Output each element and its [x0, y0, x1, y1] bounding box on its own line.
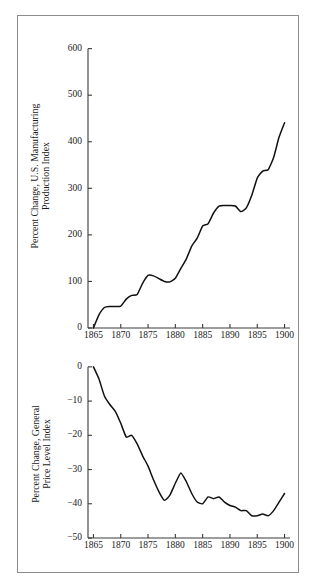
x-tick-label: 1900 — [275, 540, 294, 550]
y-tick-label: −30 — [67, 464, 82, 474]
y-axis-title-manufacturing: Percent Change, U.S. Manufacturing Produ… — [29, 104, 51, 249]
figure-frame: Percent Change, U.S. Manufacturing Produ… — [17, 15, 299, 573]
y-axis-title-line1: Percent Change, U.S. Manufacturing — [29, 104, 40, 249]
x-tick-label: 1895 — [248, 540, 267, 550]
x-tick-label: 1870 — [111, 540, 130, 550]
x-tick-label: 1865 — [84, 330, 103, 340]
chart-general-price-level: Percent Change, General Price Level Inde… — [18, 346, 300, 572]
chart-manufacturing-production: Percent Change, U.S. Manufacturing Produ… — [18, 16, 300, 346]
y-tick-label: −20 — [67, 429, 82, 439]
x-tick-label: 1890 — [220, 330, 239, 340]
x-tick-label: 1900 — [275, 330, 294, 340]
x-tick-label: 1875 — [139, 540, 158, 550]
y-tick-label: 600 — [68, 43, 83, 53]
y-tick-label: −10 — [67, 395, 82, 405]
x-tick-label: 1870 — [111, 330, 130, 340]
x-tick-label: 1880 — [166, 330, 185, 340]
y-tick-label: 200 — [68, 229, 83, 239]
y-tick-label: 0 — [77, 322, 82, 332]
y-tick-label: 300 — [68, 183, 83, 193]
x-axis-ticks-manufacturing: 18651870187518801885189018951900 — [84, 324, 294, 340]
y-tick-label: −50 — [67, 532, 82, 542]
x-tick-label: 1885 — [193, 540, 212, 550]
y-axis-title-line2: Production Index — [40, 142, 51, 210]
y-axis-title-price-level: Percent Change, General Price Level Inde… — [30, 405, 52, 503]
y-tick-label: 100 — [68, 276, 83, 286]
y-tick-label: −40 — [67, 498, 82, 508]
chart-bottom-svg: Percent Change, General Price Level Inde… — [18, 346, 300, 572]
y-axis-title-line1: Percent Change, General — [30, 405, 41, 503]
x-axis-ticks-price-level: 18651870187518801885189018951900 — [84, 534, 294, 550]
x-tick-label: 1865 — [84, 540, 103, 550]
x-tick-label: 1890 — [220, 540, 239, 550]
x-tick-label: 1880 — [166, 540, 185, 550]
data-series-general-price-level — [93, 367, 284, 516]
x-tick-label: 1895 — [248, 330, 267, 340]
y-tick-label: 0 — [77, 361, 82, 371]
y-tick-label: 500 — [68, 89, 83, 99]
y-tick-label: 400 — [68, 136, 83, 146]
y-axis-title-line2: Price Level Index — [41, 419, 52, 489]
chart-top-svg: Percent Change, U.S. Manufacturing Produ… — [18, 16, 300, 346]
x-tick-label: 1885 — [193, 330, 212, 340]
x-tick-label: 1875 — [139, 330, 158, 340]
data-series-manufacturing-production — [93, 123, 284, 328]
